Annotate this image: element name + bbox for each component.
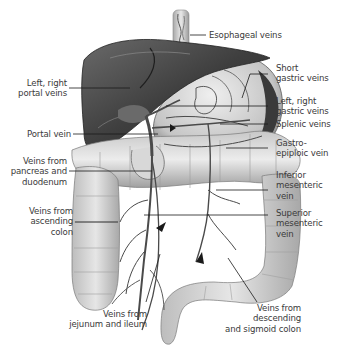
label-splenic-veins: Splenic veins xyxy=(276,119,331,129)
ascending-colon xyxy=(72,167,120,311)
label-portal-vein: Portal vein xyxy=(27,129,71,139)
label-superior-mesenteric-vein: Superior mesenteric vein xyxy=(276,208,323,239)
label-veins-pancreas-duodenum: Veins from pancreas and duodenum xyxy=(11,156,67,187)
label-short-gastric-veins: Short gastric veins xyxy=(276,63,329,84)
label-veins-descending-sigmoid-colon: Veins from descending and sigmoid colon xyxy=(225,303,301,334)
label-veins-jejunum-ileum: Veins from jejunum and ileum xyxy=(69,309,147,330)
label-left-right-portal-veins: Left, right portal veins xyxy=(18,78,67,99)
label-esophageal-veins: Esophageal veins xyxy=(209,30,282,40)
label-inferior-mesenteric-vein: Inferior mesenteric vein xyxy=(276,170,323,201)
portal-system-diagram: Esophageal veins Left, right portal vein… xyxy=(0,0,338,350)
label-gastroepiploic-vein: Gastro- epiploic vein xyxy=(276,138,328,159)
label-left-right-gastric-veins: Left, right gastric veins xyxy=(276,96,329,117)
label-veins-ascending-colon: Veins from ascending colon xyxy=(29,206,73,237)
